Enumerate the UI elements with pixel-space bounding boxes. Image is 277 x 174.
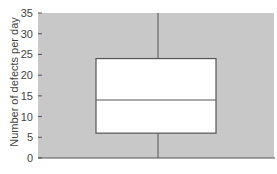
- y-tick-label: 0: [27, 152, 33, 164]
- y-tick-label: 5: [27, 131, 33, 143]
- iqr-box: [96, 59, 216, 134]
- y-tick-label: 30: [21, 28, 33, 40]
- y-tick-label: 25: [21, 48, 33, 60]
- box-plot: 05101520253035: [0, 0, 277, 174]
- y-tick-label: 35: [21, 7, 33, 19]
- y-tick-label: 10: [21, 111, 33, 123]
- y-tick-label: 15: [21, 90, 33, 102]
- y-tick-label: 20: [21, 69, 33, 81]
